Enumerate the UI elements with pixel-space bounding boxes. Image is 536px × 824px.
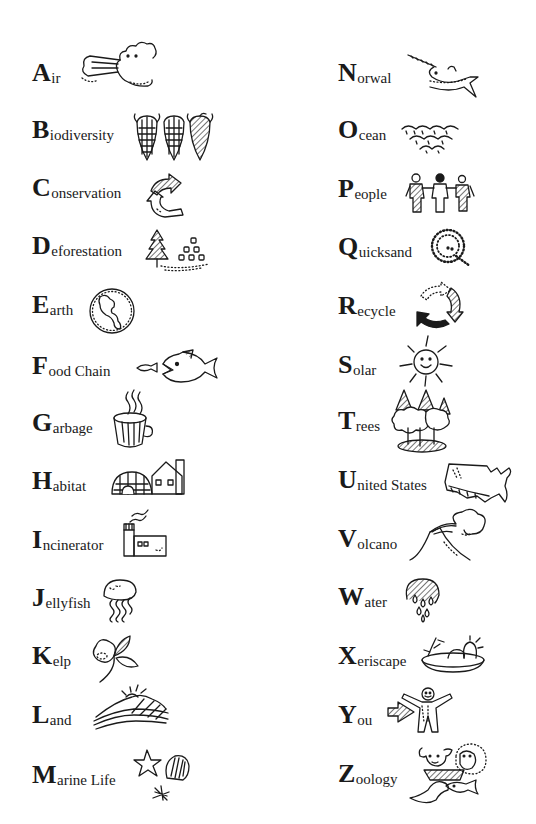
entry-xeriscape: Xeriscape (338, 643, 406, 669)
circular-arrows-icon (147, 173, 187, 219)
entry-letter: R (338, 293, 356, 319)
tree-stumps-icon (145, 228, 213, 274)
entry-people: People (338, 176, 387, 202)
recycle-arrows-icon (413, 282, 465, 332)
entry-letter: E (32, 292, 49, 318)
entry-solar: Solar (338, 352, 376, 378)
entry-word: eforestation (51, 244, 122, 259)
entry-word: ecycle (357, 304, 395, 319)
entry-letter: F (32, 353, 47, 379)
entry-word: ellyfish (46, 596, 91, 611)
entry-recycle: Recycle (338, 293, 396, 319)
people-holding-hands-icon (404, 172, 476, 214)
entry-word: cean (359, 128, 386, 143)
trees-icon (390, 388, 456, 454)
entry-word: orwal (357, 71, 391, 86)
entry-word: iodiversity (50, 128, 114, 143)
entry-word: eople (354, 187, 386, 202)
entry-word: rees (356, 419, 380, 434)
entry-marine-life: Marine Life (32, 762, 116, 788)
xeriscape-bowl-icon (420, 634, 486, 674)
entry-word: onservation (51, 186, 121, 201)
fish-eating-fish-icon (137, 352, 219, 388)
entry-word: ood Chain (48, 364, 110, 379)
person-arrow-icon (388, 686, 456, 734)
entry-word: arbage (53, 421, 93, 436)
jellyfish-icon (102, 578, 138, 624)
quicksand-q-icon (428, 226, 478, 270)
entry-volcano: Volcano (338, 526, 397, 552)
entry-garbage: Garbage (32, 410, 93, 436)
entry-united-states: United States (338, 467, 427, 493)
entry-word: uicksand (359, 245, 412, 260)
entry-word: arth (50, 303, 73, 318)
entry-letter: Y (338, 702, 356, 728)
starfish-shell-icon (135, 748, 191, 804)
entry-word: arine Life (57, 773, 116, 788)
entry-habitat: Habitat (32, 468, 86, 494)
entry-zoology: Zoology (338, 761, 398, 787)
entry-letter: N (338, 60, 356, 86)
entry-letter: V (338, 526, 356, 552)
entry-letter: W (338, 584, 364, 610)
entry-incinerator: Incinerator (32, 527, 103, 553)
entry-air: Air (32, 60, 60, 86)
entry-letter: T (338, 408, 355, 434)
entry-letter: Q (338, 234, 358, 260)
entry-food-chain: Food Chain (32, 353, 110, 379)
entry-letter: P (338, 176, 353, 202)
igloo-house-icon (110, 458, 190, 498)
entry-letter: J (32, 585, 45, 611)
entry-letter: X (338, 643, 356, 669)
entry-letter: I (32, 527, 42, 553)
entry-word: nited States (357, 478, 427, 493)
animals-icon (408, 742, 492, 806)
globe-icon (88, 287, 136, 335)
entry-letter: B (32, 117, 49, 143)
entry-deforestation: Deforestation (32, 233, 122, 259)
kelp-icon (88, 636, 140, 686)
volcano-icon (410, 508, 486, 560)
smiling-sun-icon (398, 336, 454, 388)
entry-letter: G (32, 410, 52, 436)
waves-icon (402, 123, 460, 153)
narwhal-icon (408, 55, 480, 101)
incinerator-icon (120, 510, 172, 560)
entry-word: elp (53, 654, 71, 669)
entry-letter: O (338, 117, 358, 143)
entry-jellyfish: Jellyfish (32, 585, 91, 611)
entry-kelp: Kelp (32, 643, 71, 669)
entry-letter: L (32, 702, 49, 728)
entry-letter: Z (338, 761, 355, 787)
entry-letter: H (32, 468, 52, 494)
entry-letter: D (32, 233, 50, 259)
entry-earth: Earth (32, 292, 73, 318)
entry-trees: Trees (338, 408, 380, 434)
entry-quicksand: Quicksand (338, 234, 412, 260)
entry-word: eriscape (357, 654, 406, 669)
entry-word: ou (357, 713, 372, 728)
entry-letter: K (32, 643, 52, 669)
entry-water: Water (338, 584, 387, 610)
entry-word: and (50, 713, 72, 728)
entry-word: ir (51, 71, 60, 86)
entry-ocean: Ocean (338, 117, 386, 143)
wind-cloud-icon (80, 38, 160, 94)
landscape-sun-icon (92, 683, 172, 731)
entry-conservation: Conservation (32, 175, 121, 201)
usa-map-icon (445, 460, 515, 504)
entry-biodiversity: Biodiversity (32, 117, 114, 143)
entry-norwal: Norwal (338, 60, 391, 86)
entry-word: oology (356, 772, 398, 787)
entry-word: olar (353, 363, 376, 378)
entry-letter: U (338, 467, 356, 493)
corn-icon (133, 114, 213, 162)
entry-letter: C (32, 175, 50, 201)
entry-word: ater (365, 595, 387, 610)
entry-you: You (338, 702, 372, 728)
entry-word: olcano (357, 537, 397, 552)
water-drops-icon (403, 577, 441, 623)
entry-land: Land (32, 702, 72, 728)
entry-word: ncinerator (43, 538, 104, 553)
entry-letter: M (32, 762, 56, 788)
